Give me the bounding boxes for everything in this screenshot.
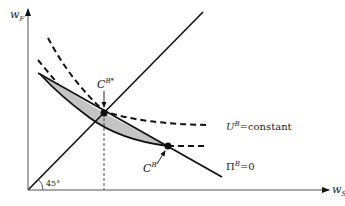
y-axis-label: wF <box>10 8 25 23</box>
utility-curve-outer <box>48 38 210 125</box>
x-axis-label: wS <box>332 183 345 198</box>
c-b-prime-label: CB′ <box>143 161 159 175</box>
angle-arc <box>39 179 44 190</box>
utility-curve-label: UB=constant <box>226 120 292 132</box>
point-c-b-prime <box>165 143 172 150</box>
45-degree-line <box>28 12 203 190</box>
point-c-b-star <box>101 110 108 117</box>
diagram-canvas: wF wS 45° CB* CB′ UB=constant ΠB=0 <box>0 0 345 206</box>
c-b-star-label: CB* <box>97 77 115 91</box>
angle-label: 45° <box>46 179 60 188</box>
profit-line-label: ΠB=0 <box>226 160 255 172</box>
arrow-to-c-b-prime <box>157 151 165 164</box>
